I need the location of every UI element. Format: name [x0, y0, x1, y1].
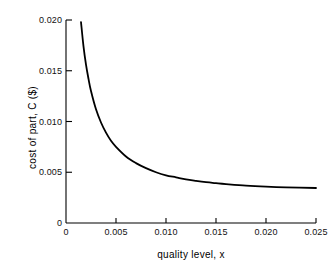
- x-axis-title: quality level, x: [157, 249, 225, 260]
- chart-figure: 00.0050.0100.0150.0200.025 00.0050.0100.…: [0, 0, 335, 269]
- y-tick-label: 0.015: [14, 66, 62, 76]
- y-axis-ticks: [66, 20, 72, 172]
- x-tick-label: 0.010: [154, 227, 177, 237]
- y-tick-label: 0: [14, 218, 62, 228]
- y-tick-label: 0.010: [14, 117, 62, 127]
- data-series-line: [81, 22, 316, 188]
- y-tick-label: 0.020: [14, 15, 62, 25]
- x-tick-label: 0: [63, 227, 68, 237]
- x-tick-label: 0.005: [104, 227, 127, 237]
- axis-lines: [66, 20, 316, 223]
- y-tick-label: 0.005: [14, 167, 62, 177]
- x-axis-ticks: [116, 218, 316, 223]
- x-tick-label: 0.020: [254, 227, 277, 237]
- y-axis-title: cost of part, C ($): [27, 48, 38, 208]
- x-tick-label: 0.025: [304, 227, 327, 237]
- x-tick-label: 0.015: [204, 227, 227, 237]
